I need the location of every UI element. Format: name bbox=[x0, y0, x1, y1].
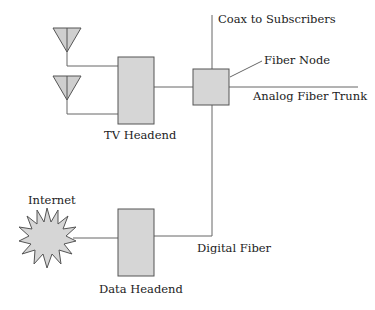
tv-headend-box bbox=[118, 57, 154, 124]
antenna-1-icon bbox=[53, 28, 81, 52]
cable-network-diagram: Coax to Subscribers Fiber Node Analog Fi… bbox=[0, 0, 375, 310]
fiber-node-label: Fiber Node bbox=[264, 53, 330, 67]
digital-fiber-label: Digital Fiber bbox=[197, 241, 271, 255]
data-headend-box bbox=[118, 209, 154, 276]
data-headend-label: Data Headend bbox=[99, 282, 183, 296]
tv-headend-label: TV Headend bbox=[104, 128, 176, 142]
antenna-2-link bbox=[67, 100, 118, 114]
coax-label: Coax to Subscribers bbox=[218, 12, 336, 26]
digital-fiber-line bbox=[154, 105, 212, 236]
fiber-node-leader bbox=[230, 61, 262, 77]
antenna-2-icon bbox=[53, 76, 81, 100]
diagram-graphics bbox=[0, 0, 375, 310]
fiber-node-box bbox=[193, 69, 229, 105]
internet-label: Internet bbox=[28, 193, 76, 207]
analog-trunk-label: Analog Fiber Trunk bbox=[253, 89, 367, 103]
antenna-1-link bbox=[67, 52, 118, 66]
internet-starburst-icon bbox=[19, 208, 76, 268]
